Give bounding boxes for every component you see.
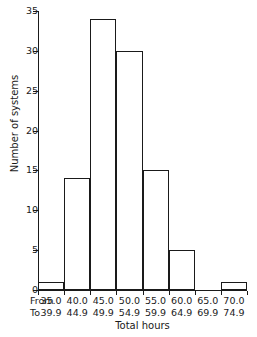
x-axis-tick bbox=[195, 291, 196, 295]
x-axis-tick bbox=[90, 291, 91, 295]
x-axis-tick bbox=[169, 291, 170, 295]
x-axis-tick bbox=[221, 291, 222, 295]
histogram-bar bbox=[38, 282, 64, 290]
x-axis-tick bbox=[143, 291, 144, 295]
x-axis-bin-to-label: 74.9 bbox=[219, 308, 249, 318]
y-axis-tick-label: 35 bbox=[8, 6, 38, 16]
histogram-bar bbox=[221, 282, 247, 290]
histogram-bar bbox=[169, 250, 195, 290]
histogram-figure: 05101520253035 From To 35.039.940.044.94… bbox=[0, 0, 257, 337]
y-axis-title: Number of systems bbox=[9, 54, 20, 194]
histogram-bar bbox=[64, 178, 90, 290]
x-axis-tick bbox=[64, 291, 65, 295]
x-axis-tick bbox=[38, 291, 39, 295]
histogram-bar bbox=[116, 51, 142, 290]
y-axis-tick-label: 10 bbox=[8, 206, 38, 216]
y-axis-tick-label: 5 bbox=[8, 245, 38, 255]
x-axis-bin-from-label: 70.0 bbox=[219, 296, 249, 306]
x-axis-title: Total hours bbox=[38, 320, 247, 331]
histogram-bar bbox=[90, 19, 116, 290]
y-axis-tick-label: 0 bbox=[8, 285, 38, 295]
x-axis-tick-labels: From To 35.039.940.044.945.049.950.054.9… bbox=[0, 295, 257, 321]
x-axis-tick bbox=[247, 291, 248, 295]
histogram-bar bbox=[143, 170, 169, 290]
plot-area bbox=[38, 11, 247, 290]
x-axis-tick bbox=[116, 291, 117, 295]
